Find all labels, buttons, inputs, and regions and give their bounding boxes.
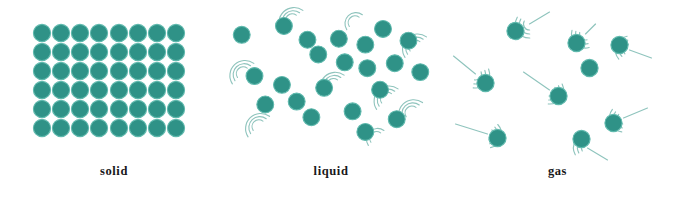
solid-particle — [52, 24, 69, 41]
solid-particle — [148, 24, 165, 41]
solid-particle — [110, 100, 127, 117]
solid-particle — [71, 62, 88, 79]
solid-particle — [90, 119, 107, 136]
motion-trail — [588, 148, 608, 160]
motion-trail — [454, 56, 476, 74]
label-solid: solid — [0, 163, 228, 179]
motion-arc — [249, 117, 266, 134]
gas-particle-group — [477, 22, 628, 147]
liquid-particle — [344, 103, 361, 120]
liquid-particle — [375, 21, 392, 38]
solid-particle — [52, 119, 69, 136]
liquid-particle — [359, 60, 376, 77]
solid-particle — [33, 43, 50, 60]
panel-solid: solid — [0, 0, 228, 202]
liquid-particle-diagram — [228, 0, 434, 155]
solid-particle — [148, 43, 165, 60]
solid-particle — [90, 24, 107, 41]
solid-particle — [52, 62, 69, 79]
liquid-particle — [412, 64, 429, 81]
solid-particle — [110, 24, 127, 41]
solid-particle — [167, 100, 184, 117]
states-of-matter-figure: solid liquid gas — [0, 0, 681, 202]
liquid-particle — [310, 46, 327, 63]
solid-particle — [71, 119, 88, 136]
solid-particle — [129, 100, 146, 117]
solid-particle — [71, 100, 88, 117]
solid-svg — [0, 0, 228, 155]
solid-particle — [52, 81, 69, 98]
gas-particle-diagram — [434, 0, 681, 155]
solid-particle — [129, 62, 146, 79]
motion-trail — [524, 72, 550, 90]
liquid-particle — [299, 31, 316, 48]
motion-trail — [456, 124, 488, 134]
solid-particle — [90, 100, 107, 117]
gas-svg — [434, 0, 681, 155]
solid-particle — [33, 62, 50, 79]
motion-trail — [624, 108, 648, 118]
solid-particle-group — [33, 24, 184, 136]
motion-arc — [348, 16, 359, 27]
solid-particle — [33, 119, 50, 136]
motion-arc — [252, 120, 263, 131]
liquid-particle — [386, 55, 403, 72]
liquid-particle — [303, 109, 320, 126]
solid-particle — [90, 43, 107, 60]
solid-particle — [52, 100, 69, 117]
liquid-particle — [400, 32, 417, 49]
gas-particle — [611, 36, 628, 53]
gas-particle — [477, 74, 494, 91]
panel-liquid: liquid — [228, 0, 434, 202]
solid-particle — [33, 24, 50, 41]
liquid-particle — [257, 96, 274, 113]
gas-particle — [568, 34, 585, 51]
motion-arc — [345, 13, 362, 30]
label-gas: gas — [434, 163, 681, 179]
solid-particle — [52, 43, 69, 60]
solid-particle — [110, 43, 127, 60]
liquid-particle — [275, 18, 292, 35]
gas-particle — [489, 129, 506, 146]
motion-arc — [405, 106, 416, 117]
liquid-particle — [357, 124, 374, 141]
liquid-particle — [274, 76, 291, 93]
solid-particle — [110, 62, 127, 79]
solid-particle — [33, 81, 50, 98]
motion-trail — [530, 12, 550, 24]
solid-particle — [129, 43, 146, 60]
gas-particle — [605, 114, 622, 131]
solid-particle — [167, 24, 184, 41]
liquid-particle — [246, 68, 263, 85]
solid-particle — [148, 100, 165, 117]
solid-particle — [129, 119, 146, 136]
gas-particle — [573, 130, 590, 147]
solid-particle — [167, 119, 184, 136]
solid-particle — [167, 62, 184, 79]
liquid-particle — [233, 26, 250, 43]
liquid-particle — [288, 93, 305, 110]
solid-particle — [110, 81, 127, 98]
motion-arc — [524, 21, 530, 30]
solid-particle — [148, 62, 165, 79]
solid-particle — [167, 43, 184, 60]
gas-particle — [507, 22, 524, 39]
solid-particle — [129, 24, 146, 41]
motion-trail — [586, 24, 596, 34]
label-liquid: liquid — [228, 163, 434, 179]
solid-particle — [167, 81, 184, 98]
solid-particle — [71, 24, 88, 41]
solid-particle — [110, 119, 127, 136]
solid-particle-diagram — [0, 0, 228, 155]
liquid-particle — [357, 36, 374, 53]
solid-particle — [90, 62, 107, 79]
solid-particle — [90, 81, 107, 98]
liquid-particle — [336, 54, 353, 71]
liquid-particle — [388, 111, 405, 128]
liquid-particle — [330, 30, 347, 47]
solid-particle — [129, 81, 146, 98]
solid-particle — [71, 81, 88, 98]
solid-particle — [33, 100, 50, 117]
liquid-particle — [316, 79, 333, 96]
gas-particle — [581, 59, 598, 76]
